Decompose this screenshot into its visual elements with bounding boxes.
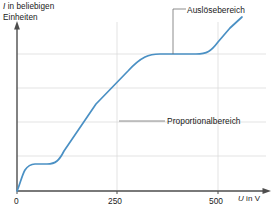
x-axis-arrow-icon: [263, 188, 272, 194]
ausloesebereich-leader-line: [173, 9, 186, 54]
x-tick-label-0: 0: [14, 196, 19, 206]
chart-figure: I in beliebigen Einheiten U in V 0 250 5…: [0, 0, 274, 211]
chart-plot-area: [0, 0, 274, 211]
x-tick-label-250: 250: [108, 196, 122, 206]
vertical-gridlines: [117, 22, 218, 190]
y-axis-label-rest: in beliebigen: [5, 2, 54, 11]
x-axis-label: U in V: [238, 194, 260, 205]
y-axis-label-line2: Einheiten: [3, 13, 54, 24]
y-axis-label: I in beliebigen Einheiten: [3, 2, 54, 23]
ausloesebereich-annotation-label: Auslösebereich: [187, 5, 245, 15]
proportionalbereich-annotation-label: Proportionalbereich: [167, 116, 241, 126]
x-axis-label-rest: in V: [244, 194, 260, 203]
y-axis: [14, 21, 20, 191]
x-axis: [17, 188, 271, 194]
x-tick-label-500: 500: [209, 196, 223, 206]
ausloesebereich-leader-path: [173, 9, 186, 54]
horizontal-gridlines: [17, 54, 266, 156]
data-series-line: [17, 17, 242, 191]
